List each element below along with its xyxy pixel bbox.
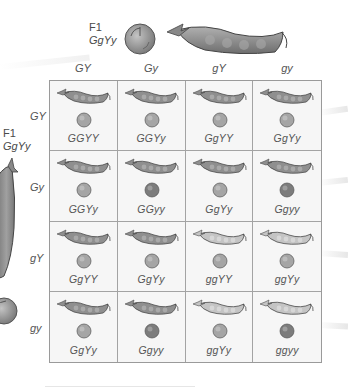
pod-icon — [259, 157, 315, 177]
row-gamete-GY: GY — [30, 110, 48, 122]
punnett-cell: GgYy — [186, 151, 254, 221]
pod-icon — [192, 298, 248, 318]
pod-icon — [124, 157, 180, 177]
punnett-cell: GGYY — [50, 81, 118, 151]
pod-icon — [192, 228, 248, 248]
cell-genotype: GGYY — [50, 132, 117, 144]
punnett-cell: GgYy — [50, 292, 118, 362]
cell-genotype: GgYy — [118, 273, 185, 285]
cell-genotype: GGyy — [118, 203, 185, 215]
background-line — [45, 386, 195, 387]
column-gamete-gY: gY — [185, 62, 253, 74]
cell-genotype: Ggyy — [118, 344, 185, 356]
cell-genotype: GgYy — [186, 203, 253, 215]
pea-icon — [212, 112, 228, 128]
pod-icon — [124, 87, 180, 107]
punnett-cell: GgYY — [186, 81, 254, 151]
side-parent-genotype: GgYy — [3, 140, 31, 153]
pod-icon — [259, 87, 315, 107]
cell-genotype: ggYy — [253, 273, 321, 285]
pea-icon — [279, 182, 295, 198]
pea-icon — [279, 253, 295, 269]
column-gamete-Gy: Gy — [117, 62, 185, 74]
punnett-cell: Ggyy — [253, 151, 321, 221]
pea-icon — [76, 253, 92, 269]
pea-icon — [76, 323, 92, 339]
top-parent-pea-icon — [123, 22, 157, 56]
cell-genotype: GgYY — [50, 273, 117, 285]
cell-genotype: ggyy — [253, 344, 321, 356]
row-gamete-gY: gY — [30, 252, 48, 264]
punnett-cell: GGYy — [50, 151, 118, 221]
pod-icon — [259, 228, 315, 248]
pod-icon — [124, 298, 180, 318]
punnett-cell: Ggyy — [118, 292, 186, 362]
background-ray — [318, 177, 348, 186]
cell-genotype: Ggyy — [253, 203, 321, 215]
row-gamete-gy: gy — [30, 322, 48, 334]
pea-icon — [76, 182, 92, 198]
cell-genotype: GgYy — [253, 132, 321, 144]
side-parent-pod-icon — [0, 158, 24, 282]
pea-icon — [144, 253, 160, 269]
cell-genotype: ggYy — [186, 344, 253, 356]
pod-icon — [56, 228, 112, 248]
punnett-cell: ggYY — [186, 222, 254, 292]
pea-icon — [212, 253, 228, 269]
side-parent-label: F1 GgYy — [3, 127, 31, 153]
pea-icon — [212, 323, 228, 339]
pea-icon — [212, 182, 228, 198]
punnett-square: GGYYGGYyGgYYGgYyGGYyGGyyGgYyGgyyGgYYGgYy… — [49, 80, 322, 363]
punnett-cell: GgYY — [50, 222, 118, 292]
cell-genotype: GgYy — [50, 344, 117, 356]
punnett-cell: ggYy — [253, 222, 321, 292]
cell-genotype: GGYy — [118, 132, 185, 144]
top-parent-generation: F1 — [89, 21, 117, 34]
background-ray — [318, 250, 348, 258]
top-parent-genotype: GgYy — [89, 34, 117, 47]
punnett-cell: GgYy — [253, 81, 321, 151]
side-parent-pea-icon — [0, 297, 22, 327]
cell-genotype: GGYy — [50, 203, 117, 215]
pod-icon — [192, 157, 248, 177]
pea-icon — [279, 323, 295, 339]
pea-icon — [76, 112, 92, 128]
top-parent-label: F1 GgYy — [89, 21, 117, 47]
punnett-cell: GGyy — [118, 151, 186, 221]
pod-icon — [56, 87, 112, 107]
pea-icon — [144, 323, 160, 339]
background-ray — [318, 322, 348, 330]
top-parent-pod-icon — [165, 20, 290, 60]
background-ray — [318, 106, 348, 116]
cell-genotype: ggYY — [186, 273, 253, 285]
column-gamete-GY: GY — [49, 62, 117, 74]
pea-icon — [144, 182, 160, 198]
punnett-cell: GGYy — [118, 81, 186, 151]
side-parent-generation: F1 — [3, 127, 31, 140]
cell-genotype: GgYY — [186, 132, 253, 144]
punnett-cell: GgYy — [118, 222, 186, 292]
pod-icon — [56, 157, 112, 177]
pod-icon — [259, 298, 315, 318]
punnett-cell: ggyy — [253, 292, 321, 362]
column-gamete-gy: gy — [253, 62, 321, 74]
pod-icon — [124, 228, 180, 248]
row-gamete-Gy: Gy — [30, 181, 48, 193]
punnett-cell: ggYy — [186, 292, 254, 362]
pea-icon — [144, 112, 160, 128]
pod-icon — [192, 87, 248, 107]
pod-icon — [56, 298, 112, 318]
pea-icon — [279, 112, 295, 128]
